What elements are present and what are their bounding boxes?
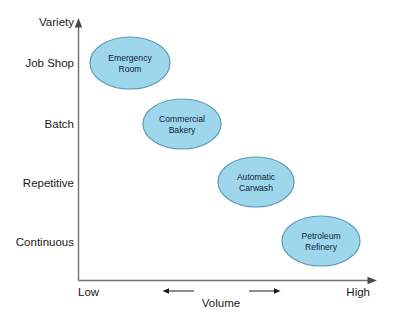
x-axis-arrowhead-icon [368,277,378,284]
data-point-automatic-carwash[interactable]: Automatic Carwash [218,157,294,207]
process-type-chart-figure: Variety Job Shop Batch Repetitive Contin… [0,0,400,317]
chart-canvas: Variety Job Shop Batch Repetitive Contin… [0,0,400,317]
x-tick-label-low: Low [78,286,100,298]
volume-right-direction-arrow-icon [249,288,281,293]
y-tick-label-batch: Batch [45,118,74,130]
y-tick-label-continuous: Continuous [16,236,74,248]
data-point-label-line2: Bakery [169,125,196,135]
y-axis [75,18,82,281]
x-axis-title: Volume [202,297,240,309]
y-axis-title: Variety [39,16,74,28]
x-axis [79,277,378,284]
data-point-emergency-room[interactable]: Emergency Room [90,37,170,89]
data-point-label-line1: Automatic [237,172,276,182]
y-axis-arrowhead-icon [75,18,82,28]
data-point-label-line2: Refinery [305,242,338,252]
data-point-petroleum-refinery[interactable]: Petroleum Refinery [282,216,360,266]
data-point-ellipse[interactable] [143,99,221,149]
y-tick-label-repetitive: Repetitive [23,177,74,189]
data-point-label-line1: Petroleum [301,231,340,241]
data-point-ellipse[interactable] [218,157,294,207]
x-tick-label-high: High [346,286,370,298]
data-point-label-line1: Emergency [108,53,152,63]
data-point-commercial-bakery[interactable]: Commercial Bakery [143,99,221,149]
data-point-ellipse[interactable] [90,37,170,89]
data-point-ellipse[interactable] [282,216,360,266]
data-point-label-line2: Carwash [239,183,273,193]
data-point-label-line1: Commercial [159,114,205,124]
volume-left-direction-arrow-icon [163,288,195,293]
y-tick-label-job-shop: Job Shop [25,57,74,69]
data-point-label-line2: Room [119,64,142,74]
